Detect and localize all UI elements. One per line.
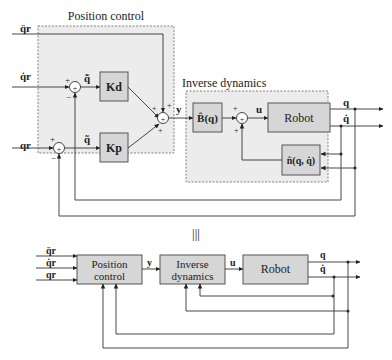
output-q: q	[343, 96, 350, 108]
svg-text:+: +	[73, 84, 78, 93]
svg-text:control: control	[94, 270, 125, 282]
svg-text:−: −	[66, 92, 71, 102]
svg-text:+: +	[234, 126, 239, 135]
gain-kd-label: Kd	[106, 80, 122, 94]
svg-text:dynamics: dynamics	[171, 270, 213, 282]
input-qddot-r: q̈r	[20, 22, 31, 34]
svg-text:−: −	[51, 153, 56, 163]
nonlinear-compensation-label: n̂(q, q̇)	[287, 155, 315, 167]
bottom-input-q-r: qr	[46, 269, 57, 280]
input-q-r: qr	[20, 139, 31, 151]
svg-text:+: +	[57, 145, 62, 154]
error-qdot-tilde: q̃̇	[84, 72, 91, 84]
bottom-output-q: q	[320, 249, 326, 260]
svg-text:+: +	[65, 75, 70, 85]
svg-text:+: +	[152, 104, 157, 113]
error-q-tilde: q̃	[84, 133, 91, 145]
control-block-diagram: Position control Inverse dynamics q̈r q̇…	[0, 0, 392, 360]
robot-label: Robot	[284, 111, 314, 125]
svg-text:Robot: Robot	[261, 262, 291, 276]
inverse-dynamics-title: Inverse dynamics	[182, 76, 267, 90]
svg-text:+: +	[50, 134, 55, 144]
inertia-label: B̂(q)	[197, 112, 218, 125]
bottom-signal-u: u	[230, 257, 236, 268]
bottom-output-qdot: q̇	[320, 263, 326, 274]
svg-text:+: +	[158, 126, 163, 135]
output-qdot: q̇	[343, 112, 350, 124]
svg-text:+: +	[233, 104, 238, 113]
svg-text:+: +	[240, 115, 245, 124]
signal-u: u	[256, 103, 262, 115]
position-control-title: Position control	[68, 9, 145, 23]
svg-text:+: +	[167, 101, 172, 110]
signal-y: y	[176, 103, 182, 115]
svg-text:+: +	[161, 115, 166, 124]
gain-kp-label: Kp	[106, 141, 122, 155]
svg-text:Inverse: Inverse	[176, 258, 208, 270]
bottom-input-qddot-r: q̈r	[46, 245, 57, 256]
equivalence-symbol: |||	[192, 226, 200, 241]
input-qdot-r: q̇r	[20, 70, 31, 82]
svg-text:Position: Position	[91, 258, 128, 270]
bottom-input-qdot-r: q̇r	[46, 257, 57, 268]
bottom-signal-y: y	[147, 257, 152, 268]
